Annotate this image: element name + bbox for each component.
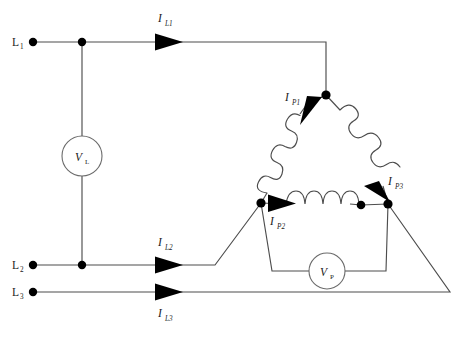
current-ip3-sub: P3	[394, 183, 403, 191]
terminal-label-l3: L 3	[12, 286, 24, 301]
current-label-il3: I L3	[157, 307, 173, 323]
voltmeter-vl: V L	[62, 136, 102, 176]
junction-dot-l1	[78, 38, 86, 46]
current-arrow-ip1	[300, 96, 322, 125]
current-il2-main: I	[157, 236, 163, 248]
terminal-label-l2: L 2	[12, 259, 24, 274]
voltmeter-vl-subscript: L	[85, 158, 89, 166]
terminal-l1-sub: 1	[20, 43, 24, 51]
voltmeter-vp: V P	[309, 253, 345, 289]
terminal-dot-l2	[29, 261, 37, 269]
delta-apex-node	[321, 90, 330, 99]
current-ip2-main: I	[269, 215, 275, 227]
terminal-dot-l1	[29, 38, 37, 46]
current-arrow-il1	[155, 34, 183, 51]
terminal-l3-sub: 3	[20, 293, 24, 301]
circuit-diagram: V L V P L 1 L 2 L 3 I L1 I L2	[0, 0, 467, 345]
current-arrow-il3	[155, 284, 183, 301]
line-conductor-l1	[33, 42, 326, 95]
terminal-dot-l3	[29, 288, 37, 296]
terminal-label-l1: L 1	[12, 36, 24, 51]
current-ip1-main: I	[284, 91, 290, 103]
junction-dot-l2	[78, 261, 86, 269]
current-ip1-sub: P1	[291, 99, 300, 107]
current-il1-main: I	[157, 12, 163, 24]
delta-right-vertex-node	[383, 199, 392, 208]
terminal-l1-main: L	[12, 36, 19, 48]
delta-left-vertex-node	[256, 198, 265, 207]
voltmeter-vp-subscript: P	[330, 273, 334, 281]
circuit-svg: V L V P L 1 L 2 L 3 I L1 I L2	[0, 0, 467, 345]
current-arrow-il2	[155, 257, 183, 274]
current-arrow-ip2	[268, 195, 296, 213]
current-label-ip1: I P1	[284, 91, 300, 107]
current-il1-sub: L1	[164, 20, 173, 28]
current-arrow-ip3	[364, 181, 390, 202]
current-ip3-main: I	[387, 175, 393, 187]
current-label-il1: I L1	[157, 12, 173, 28]
current-label-ip3: I P3	[387, 175, 403, 191]
terminal-l2-sub: 2	[20, 266, 24, 274]
winding-coil-p3	[326, 95, 400, 204]
line-conductor-l2	[33, 203, 261, 265]
current-ip2-sub: P2	[276, 223, 285, 231]
current-il3-sub: L3	[164, 315, 173, 323]
delta-coil-end-node	[357, 201, 366, 210]
terminal-l2-main: L	[12, 259, 19, 271]
current-il2-sub: L2	[164, 244, 173, 252]
current-il3-main: I	[157, 307, 163, 319]
terminal-l3-main: L	[12, 286, 19, 298]
winding-coil-p1	[257, 95, 326, 203]
current-label-ip2: I P2	[269, 215, 285, 231]
current-label-il2: I L2	[157, 236, 173, 252]
